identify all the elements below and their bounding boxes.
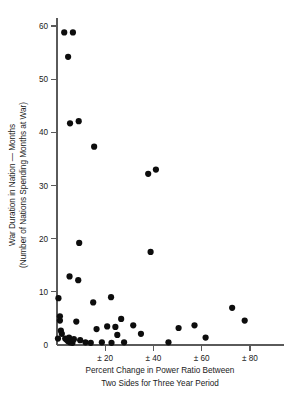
data-point (112, 324, 118, 330)
data-point (90, 299, 96, 305)
y-tick-label: 30 (39, 182, 49, 191)
data-point (77, 337, 83, 343)
x-tick-label: ± 80 (242, 354, 258, 363)
data-point (55, 295, 61, 301)
data-point (108, 340, 114, 346)
data-point (114, 332, 120, 338)
data-point (93, 326, 99, 332)
data-point (71, 336, 77, 342)
data-point (91, 144, 97, 150)
data-point (145, 171, 151, 177)
y-axis-ticks: 0102030405060 (39, 22, 57, 350)
data-point (55, 336, 61, 342)
data-point (76, 118, 82, 124)
y-tick-label: 60 (39, 22, 49, 31)
data-point (121, 339, 127, 345)
data-point (229, 305, 235, 311)
data-point (76, 240, 82, 246)
y-axis-label: War Duration in Nation — Months (Number … (8, 102, 28, 268)
data-points (55, 29, 248, 346)
chart-canvas: War Duration in Nation — Months (Number … (0, 0, 292, 394)
x-tick-label: ± 60 (194, 354, 210, 363)
data-point (138, 331, 144, 337)
data-point (191, 322, 197, 328)
data-point (75, 277, 81, 283)
data-point (153, 166, 159, 172)
y-tick-label: 10 (39, 288, 49, 297)
x-axis-label-line1: Percent Change in Power Ratio Between (86, 366, 235, 375)
y-tick-label: 40 (39, 128, 49, 137)
data-point (130, 322, 136, 328)
data-point (66, 273, 72, 279)
data-point (203, 334, 209, 340)
data-point (104, 323, 110, 329)
data-point (175, 325, 181, 331)
x-axis-ticks: ± 20± 40± 60± 80 (97, 345, 258, 363)
data-point (57, 317, 63, 323)
data-point (118, 316, 124, 322)
data-point (165, 339, 171, 345)
y-tick-label: 20 (39, 235, 49, 244)
x-tick-label: ± 20 (97, 354, 113, 363)
data-point (88, 340, 94, 346)
data-point (65, 54, 71, 60)
x-axis-label-line2: Two Sides for Three Year Period (101, 379, 219, 388)
y-tick-label: 0 (43, 341, 48, 350)
scatter-plot-figure: War Duration in Nation — Months (Number … (0, 0, 292, 394)
data-point (148, 249, 154, 255)
axes (57, 18, 284, 345)
y-axis-label-line2: (Number of Nations Spending Months at Wa… (19, 102, 28, 268)
data-point (82, 339, 88, 345)
data-point (242, 317, 248, 323)
data-point (99, 339, 105, 345)
data-point (67, 120, 73, 126)
data-point (61, 29, 67, 35)
y-tick-label: 50 (39, 75, 49, 84)
x-tick-label: ± 40 (146, 354, 162, 363)
data-point (70, 29, 76, 35)
x-axis-label: Percent Change in Power Ratio Between Tw… (86, 366, 235, 388)
data-point (108, 294, 114, 300)
y-axis-label-line1: War Duration in Nation — Months (8, 124, 17, 246)
data-point (73, 319, 79, 325)
